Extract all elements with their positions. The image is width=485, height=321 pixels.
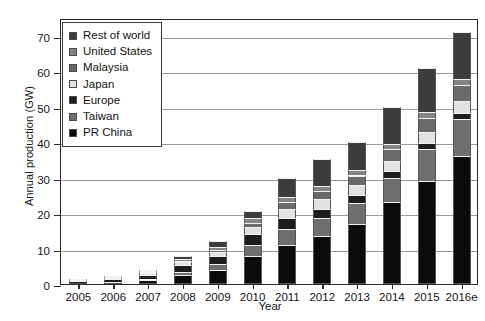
bar-segment — [383, 202, 401, 284]
x-axis-tick — [253, 284, 254, 289]
bar-segment — [244, 227, 262, 235]
bar-2013 — [348, 142, 366, 284]
bar-segment — [418, 132, 436, 143]
bar-segment — [278, 209, 296, 218]
x-axis-tick — [462, 284, 463, 289]
bar-segment — [348, 176, 366, 186]
bar-segment — [209, 241, 227, 246]
bar-segment — [383, 149, 401, 160]
bar-segment — [209, 256, 227, 264]
bar-2009 — [209, 241, 227, 284]
bar-segment — [278, 229, 296, 245]
legend: Rest of worldUnited StatesMalaysiaJapanE… — [62, 22, 162, 147]
bar-segment — [104, 279, 122, 281]
x-axis-tick — [427, 284, 428, 289]
bar-segment — [313, 236, 331, 284]
bar-segment — [453, 79, 471, 85]
bar-segment — [244, 256, 262, 284]
y-axis-tick — [54, 180, 61, 181]
y-axis-tick-label: 60 — [37, 67, 50, 79]
legend-swatch-icon — [69, 113, 77, 121]
y-axis-tick-label: 0 — [44, 280, 50, 292]
legend-swatch-icon — [69, 96, 77, 104]
y-axis-tick — [54, 215, 61, 216]
y-axis-tick-label: 70 — [37, 32, 50, 44]
bar-2006 — [104, 276, 122, 284]
bar-segment — [278, 178, 296, 197]
bar-segment — [383, 144, 401, 150]
bar-segment — [104, 276, 122, 277]
bar-segment — [209, 247, 227, 250]
bar-segment — [278, 218, 296, 229]
bar-segment — [139, 275, 157, 279]
y-axis-tick — [54, 144, 61, 145]
bar-segment — [418, 143, 436, 149]
bar-segment — [244, 245, 262, 256]
x-axis-tick — [287, 284, 288, 289]
bar-segment — [313, 186, 331, 191]
bar-segment — [383, 161, 401, 171]
bar-segment — [139, 270, 157, 271]
bar-2014 — [383, 107, 401, 284]
y-axis-tick-label: 50 — [37, 103, 50, 115]
bar-segment — [69, 280, 87, 281]
gridline — [61, 180, 477, 181]
bar-segment — [278, 202, 296, 208]
y-axis-tick-label: 20 — [37, 209, 50, 221]
y-axis-tick — [54, 109, 61, 110]
x-axis-tick-label: 2015 — [414, 291, 440, 303]
legend-item-label: United States — [83, 46, 152, 58]
gridline — [61, 215, 477, 216]
legend-item-label: Europe — [83, 95, 120, 107]
x-axis-tick-label: 2013 — [344, 291, 370, 303]
legend-swatch-icon — [69, 32, 77, 40]
legend-item: Malaysia — [69, 60, 152, 76]
y-axis-tick-label: 30 — [37, 174, 50, 186]
bar-segment — [244, 211, 262, 218]
bar-segment — [348, 203, 366, 224]
bar-segment — [348, 170, 366, 176]
legend-item-label: PR China — [83, 127, 132, 139]
x-axis-tick-label: 2009 — [205, 291, 231, 303]
bar-segment — [383, 107, 401, 144]
legend-swatch-icon — [69, 48, 77, 56]
bar-segment — [383, 171, 401, 178]
bar-segment — [244, 223, 262, 227]
bar-segment — [174, 272, 192, 275]
bar-2015 — [418, 68, 436, 284]
legend-item-label: Taiwan — [83, 111, 119, 123]
bar-segment — [348, 142, 366, 170]
bar-segment — [348, 195, 366, 203]
bar-segment — [174, 275, 192, 284]
x-axis-tick — [113, 284, 114, 289]
y-axis-title: Annual production (GW) — [23, 16, 35, 276]
bar-segment — [348, 224, 366, 284]
legend-item: Taiwan — [69, 108, 152, 124]
bar-segment — [418, 112, 436, 118]
x-axis-tick-label: 2011 — [275, 291, 300, 303]
x-axis-tick — [322, 284, 323, 289]
legend-item-label: Rest of world — [83, 30, 150, 42]
legend-swatch-icon — [69, 64, 77, 72]
bar-segment — [278, 245, 296, 284]
bar-segment — [313, 159, 331, 186]
x-axis-tick — [218, 284, 219, 289]
legend-item: Europe — [69, 92, 152, 108]
bar-segment — [174, 262, 192, 265]
bar-segment — [453, 32, 471, 78]
legend-item: PR China — [69, 125, 152, 141]
bar-segment — [139, 280, 157, 284]
bar-segment — [313, 191, 331, 199]
bar-segment — [209, 270, 227, 284]
bar-segment — [418, 149, 436, 181]
x-axis-tick-label: 2007 — [135, 291, 161, 303]
bar-segment — [453, 113, 471, 119]
bar-segment — [313, 209, 331, 219]
legend-item-label: Malaysia — [83, 62, 128, 74]
legend-item: Rest of world — [69, 28, 152, 44]
legend-item: United States — [69, 44, 152, 60]
bar-segment — [174, 256, 192, 260]
bar-segment — [453, 156, 471, 284]
y-axis-tick — [54, 286, 61, 287]
legend-item: Japan — [69, 76, 152, 92]
